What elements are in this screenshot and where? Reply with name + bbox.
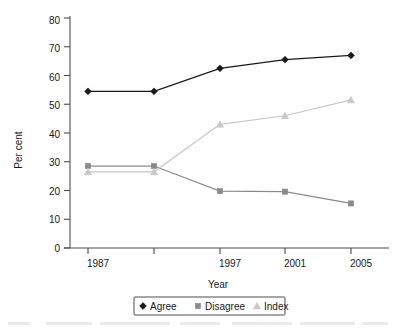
- y-axis-tick-labels: 0 10 20 30 40 50 60 70 80: [49, 15, 61, 254]
- legend-label-index: Index: [264, 301, 288, 312]
- y-tick-label: 20: [49, 186, 61, 197]
- series-line: [88, 100, 351, 172]
- data-point: [151, 88, 158, 95]
- data-point: [347, 96, 354, 103]
- scan-artifact: [300, 322, 355, 325]
- y-tick-label: 40: [49, 129, 61, 140]
- line-chart-figure: Per cent 0 10 20 30 40 50 60 70 80: [0, 0, 397, 330]
- scan-artifact: [100, 322, 170, 325]
- chart-canvas: Per cent 0 10 20 30 40 50 60 70 80: [0, 0, 397, 330]
- data-point: [282, 189, 287, 194]
- x-tick-label: 2005: [350, 258, 373, 269]
- legend-items: AgreeDisagreeIndex: [140, 301, 289, 312]
- x-axis-title: Year: [208, 279, 229, 290]
- series-agree: [85, 52, 355, 95]
- x-axis-ticks: [88, 248, 351, 254]
- data-point: [348, 52, 355, 59]
- legend-label-disagree: Disagree: [205, 301, 245, 312]
- x-tick-label: 2001: [284, 258, 307, 269]
- y-tick-label: 70: [49, 43, 61, 54]
- data-point: [85, 88, 92, 95]
- data-point: [217, 65, 224, 72]
- legend-square-marker: [195, 303, 200, 308]
- x-tick-label: 1997: [219, 258, 242, 269]
- series-index: [84, 96, 354, 174]
- scan-artifact: [232, 322, 292, 325]
- scan-artifact: [180, 322, 220, 325]
- y-tick-label: 50: [49, 100, 61, 111]
- scan-artifact: [8, 322, 30, 325]
- legend-label-agree: Agree: [150, 301, 177, 312]
- scan-artifact: [46, 322, 92, 325]
- y-tick-label: 80: [49, 15, 61, 26]
- y-axis-title: Per cent: [13, 131, 24, 168]
- y-tick-label: 60: [49, 72, 61, 83]
- x-tick-label: 1987: [87, 258, 110, 269]
- series-line: [88, 55, 351, 91]
- scan-artifact: [362, 322, 388, 325]
- x-axis-tick-labels: 1987 1997 2001 2005: [87, 258, 373, 269]
- data-point: [217, 188, 222, 193]
- y-tick-label: 10: [49, 214, 61, 225]
- y-tick-label: 30: [49, 157, 61, 168]
- y-tick-label: 0: [54, 243, 60, 254]
- series-disagree: [85, 163, 353, 206]
- y-axis-ticks: [64, 18, 70, 248]
- data-point: [348, 201, 353, 206]
- data-series-layer: [84, 52, 354, 206]
- data-point: [282, 56, 289, 63]
